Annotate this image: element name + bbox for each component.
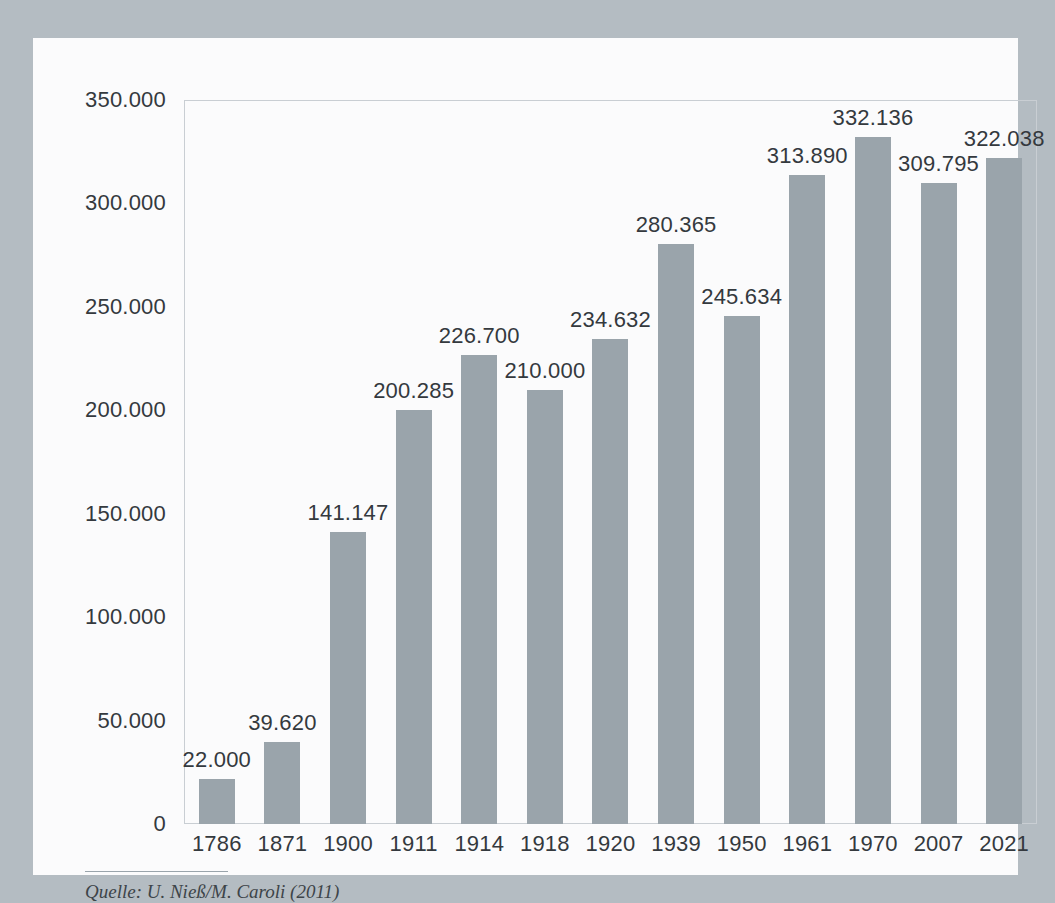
bar-value-label: 226.700 <box>439 323 520 349</box>
bar[interactable] <box>461 355 497 824</box>
bar-group: 39.620 <box>250 100 316 824</box>
bar-group: 234.632 <box>578 100 644 824</box>
bar-value-label: 313.890 <box>767 143 848 169</box>
x-tick-label: 2007 <box>906 831 972 857</box>
bar[interactable] <box>789 175 825 824</box>
y-tick-label: 150.000 <box>33 501 166 527</box>
bar-value-label: 210.000 <box>504 358 585 384</box>
bar[interactable] <box>199 779 235 825</box>
bar-value-label: 39.620 <box>248 710 317 736</box>
x-tick-label: 1900 <box>315 831 381 857</box>
source-note: Quelle: U. Nieß/M. Caroli (2011) <box>85 881 339 903</box>
bar-value-label: 309.795 <box>898 151 979 177</box>
x-tick-label: 1961 <box>775 831 841 857</box>
bars-layer: 22.00039.620141.147200.285226.700210.000… <box>184 100 1037 824</box>
bar-value-label: 322.038 <box>964 126 1045 152</box>
x-tick-label: 1914 <box>446 831 512 857</box>
x-axis: 1786187119001911191419181920193919501961… <box>184 831 1037 865</box>
bar-value-label: 280.365 <box>636 212 717 238</box>
bar-group: 141.147 <box>315 100 381 824</box>
y-tick-label: 50.000 <box>33 708 166 734</box>
y-tick-label: 250.000 <box>33 294 166 320</box>
bar[interactable] <box>724 316 760 824</box>
y-tick-label: 350.000 <box>33 87 166 113</box>
y-tick-label: 0 <box>33 811 166 837</box>
x-tick-label: 1911 <box>381 831 447 857</box>
bar-value-label: 141.147 <box>308 500 389 526</box>
bar[interactable] <box>921 183 957 824</box>
chart-card: 050.000100.000150.000200.000250.000300.0… <box>33 38 1018 875</box>
bar[interactable] <box>264 742 300 824</box>
x-tick-label: 2021 <box>971 831 1037 857</box>
bar[interactable] <box>396 410 432 824</box>
bar[interactable] <box>986 158 1022 824</box>
x-tick-label: 1786 <box>184 831 250 857</box>
bar-group: 280.365 <box>643 100 709 824</box>
bar-group: 313.890 <box>775 100 841 824</box>
bar-group: 200.285 <box>381 100 447 824</box>
x-tick-label: 1920 <box>578 831 644 857</box>
x-tick-label: 1970 <box>840 831 906 857</box>
bar-group: 210.000 <box>512 100 578 824</box>
bar-group: 322.038 <box>971 100 1037 824</box>
bar[interactable] <box>855 137 891 824</box>
bar[interactable] <box>330 532 366 824</box>
y-tick-label: 300.000 <box>33 190 166 216</box>
x-tick-label: 1871 <box>250 831 316 857</box>
source-divider <box>85 871 228 872</box>
bar[interactable] <box>527 390 563 824</box>
bar[interactable] <box>592 339 628 824</box>
bar-value-label: 22.000 <box>183 747 252 773</box>
bar[interactable] <box>658 244 694 824</box>
bar-value-label: 245.634 <box>701 284 782 310</box>
bar-value-label: 234.632 <box>570 307 651 333</box>
bar-group: 226.700 <box>446 100 512 824</box>
x-tick-label: 1950 <box>709 831 775 857</box>
bar-group: 245.634 <box>709 100 775 824</box>
x-tick-label: 1939 <box>643 831 709 857</box>
chart-figure: 050.000100.000150.000200.000250.000300.0… <box>0 0 1055 903</box>
bar-value-label: 200.285 <box>373 378 454 404</box>
bar-group: 309.795 <box>906 100 972 824</box>
bar-value-label: 332.136 <box>832 105 913 131</box>
y-tick-label: 200.000 <box>33 397 166 423</box>
y-axis: 050.000100.000150.000200.000250.000300.0… <box>33 38 184 903</box>
y-tick-label: 100.000 <box>33 604 166 630</box>
bar-group: 332.136 <box>840 100 906 824</box>
x-tick-label: 1918 <box>512 831 578 857</box>
bar-group: 22.000 <box>184 100 250 824</box>
